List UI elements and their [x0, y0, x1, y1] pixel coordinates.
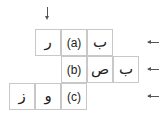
cell-a-left: ر — [35, 29, 61, 56]
char-ba: ب — [93, 35, 107, 50]
char-sad: ص — [91, 62, 109, 77]
row-label-b: (b) — [61, 56, 87, 83]
row-label-c: (c) — [61, 83, 87, 110]
char-ba: ب — [119, 62, 133, 77]
char-ra: ر — [44, 35, 51, 50]
char-waw: و — [44, 89, 51, 104]
cell-b-right-1: ص — [87, 56, 113, 83]
cell-b-right-2: ب — [113, 56, 139, 83]
char-zay: ز — [18, 89, 25, 104]
left-arrow-icon — [148, 96, 159, 97]
left-arrow-icon — [148, 69, 159, 70]
down-arrow-icon — [47, 7, 48, 18]
cell-a-right: ب — [87, 29, 113, 56]
row-label-a: (a) — [61, 29, 87, 56]
left-arrow-icon — [148, 42, 159, 43]
cell-c-left-2: و — [35, 83, 61, 110]
cell-c-left-1: ز — [9, 83, 35, 110]
